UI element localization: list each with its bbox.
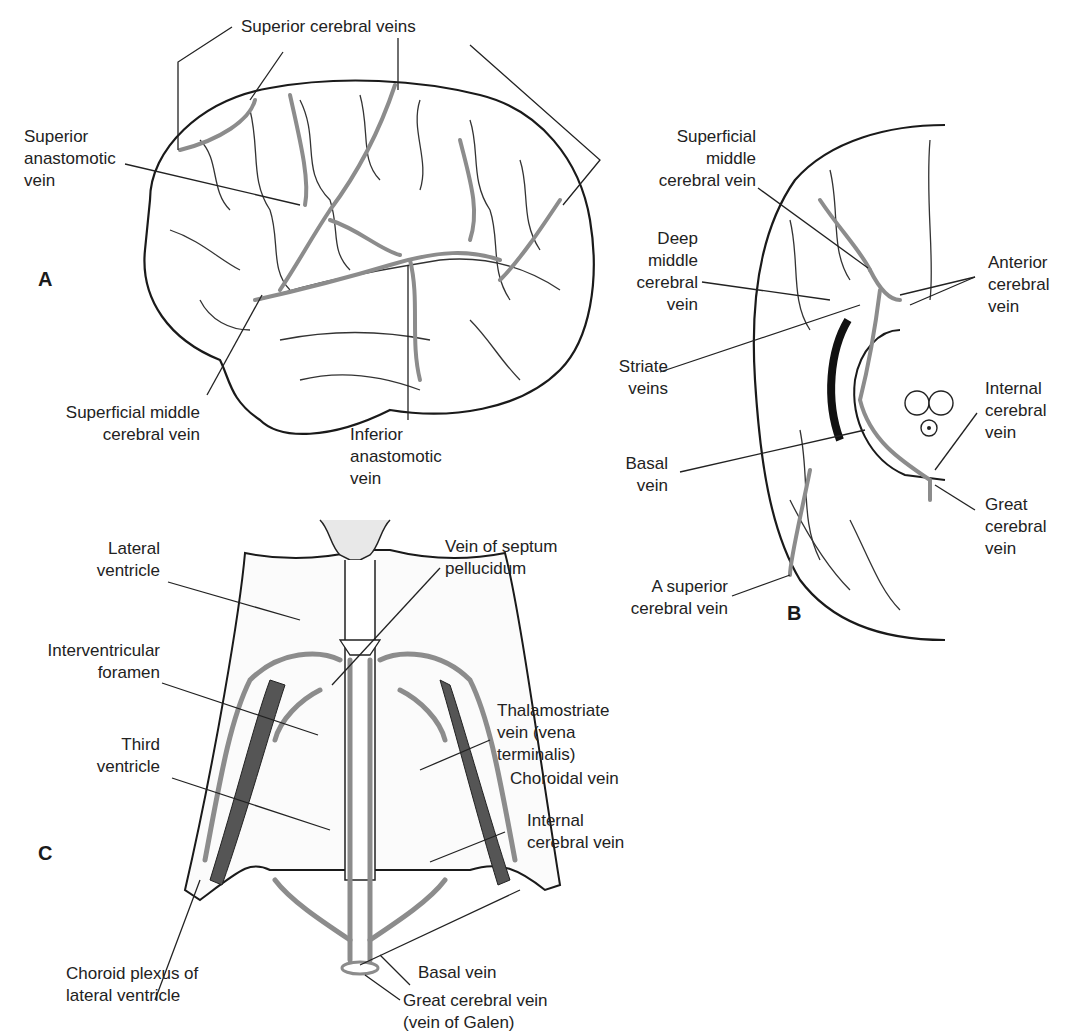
label-choroidal-vein: Choroidal vein (510, 768, 619, 790)
label-superficial-middle-cerebral-vein-a: Superficial middle cerebral vein (30, 402, 200, 446)
label-striate-veins: Striate veins (590, 356, 668, 400)
label-internal-cerebral-vein-b: Internal cerebral vein (985, 378, 1046, 444)
label-great-cerebral-vein-b: Great cerebral vein (985, 494, 1046, 560)
label-interventricular-foramen: Interventricular foramen (20, 640, 160, 684)
panel-b-brain-illustration (754, 125, 953, 640)
label-deep-middle-cerebral-vein: Deep middle cerebral vein (620, 228, 698, 316)
panel-letter-a: A (38, 268, 52, 291)
label-internal-cerebral-vein-c: Internal cerebral vein (527, 810, 624, 854)
label-anterior-cerebral-vein: Anterior cerebral vein (988, 252, 1049, 318)
label-inferior-anastomotic-vein: Inferior anastomotic vein (350, 424, 442, 490)
label-third-ventricle: Third ventricle (60, 734, 160, 778)
panel-letter-c: C (38, 842, 52, 865)
label-thalamostriate-vein: Thalamostriate vein (vena terminalis) (497, 700, 609, 766)
label-lateral-ventricle: Lateral ventricle (60, 538, 160, 582)
label-basal-vein-c: Basal vein (418, 962, 496, 984)
label-great-cerebral-vein-of-galen: Great cerebral vein (vein of Galen) (403, 990, 548, 1034)
label-a-superior-cerebral-vein: A superior cerebral vein (600, 576, 728, 620)
panel-letter-b: B (787, 602, 801, 625)
label-vein-of-septum-pellucidum: Vein of septum pellucidum (445, 536, 557, 580)
label-choroid-plexus-of-lateral-ventricle: Choroid plexus of lateral ventricle (66, 963, 198, 1007)
figure-artwork (0, 0, 1090, 1034)
label-superior-anastomotic-vein: Superior anastomotic vein (24, 126, 116, 192)
panel-a-brain-illustration (144, 81, 593, 434)
label-superficial-middle-cerebral-vein-b: Superficial middle cerebral vein (620, 126, 756, 192)
label-basal-vein-b: Basal vein (590, 453, 668, 497)
label-superior-cerebral-veins: Superior cerebral veins (241, 16, 416, 38)
